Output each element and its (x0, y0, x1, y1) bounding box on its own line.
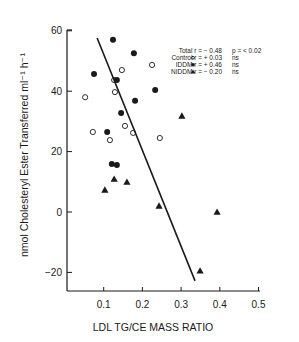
legend-label: NIDDM r = − 0.20 (171, 68, 222, 75)
y-tick-label: 60 (51, 25, 63, 36)
data-point-control (119, 67, 124, 72)
data-point-control (122, 123, 127, 128)
legend-stat: ns (232, 68, 240, 75)
data-point-control (107, 138, 112, 143)
data-point-iddm (114, 162, 120, 168)
data-point-control (83, 95, 88, 100)
scatter-chart: 0.10.20.30.40.5 −200204060 LDL TG/CE MAS… (0, 0, 299, 342)
x-tick-label: 0.3 (174, 299, 188, 310)
legend-item: IDDM r = + 0.46ns (176, 61, 240, 68)
y-ticks: −200204060 (45, 25, 72, 278)
data-point-niddm (196, 267, 203, 273)
legend: Total r = − 0.48p = < 0.02Control r = + … (171, 47, 262, 75)
legend-item: Control r = + 0.03ns (171, 54, 239, 61)
x-axis-title: LDL TG/CE MASS RATIO (93, 321, 214, 333)
legend-label: Control r = + 0.03 (171, 54, 222, 61)
data-point-iddm (109, 161, 115, 167)
x-tick-label: 0.1 (97, 299, 111, 310)
legend-item: NIDDM r = − 0.20ns (171, 68, 240, 75)
data-point-control (90, 129, 95, 134)
x-tick-label: 0.5 (252, 299, 266, 310)
data-point-niddm (111, 175, 118, 181)
legend-label: Total r = − 0.48 (179, 47, 223, 54)
y-tick-label: 0 (56, 207, 62, 218)
y-tick-label: 40 (51, 86, 63, 97)
data-point-niddm (155, 202, 162, 208)
data-point-iddm (118, 110, 124, 116)
data-point-niddm (178, 112, 185, 118)
y-axis-title: nmol Cholesteryl Ester Transferred ml⁻¹ … (18, 53, 30, 257)
x-tick-label: 0.4 (213, 299, 227, 310)
series-iddm (91, 37, 158, 168)
data-point-control (112, 90, 117, 95)
data-point-control (157, 135, 162, 140)
data-point-niddm (101, 186, 108, 192)
data-point-niddm (213, 208, 220, 214)
data-point-iddm (110, 37, 116, 43)
data-point-iddm (132, 98, 138, 104)
data-point-iddm (91, 71, 97, 77)
legend-label: IDDM r = + 0.46 (176, 61, 223, 68)
data-point-iddm (104, 129, 110, 135)
data-point-iddm (152, 87, 158, 93)
legend-stat: ns (232, 54, 240, 61)
y-tick-label: 20 (51, 146, 63, 157)
y-tick-label: −20 (45, 267, 62, 278)
x-tick-label: 0.2 (135, 299, 149, 310)
data-point-niddm (123, 179, 130, 185)
data-point-control (149, 62, 154, 67)
legend-stat: ns (232, 61, 240, 68)
data-point-iddm (131, 50, 137, 56)
